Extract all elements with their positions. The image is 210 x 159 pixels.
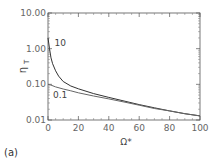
x-tick-label: 100 <box>191 123 208 133</box>
curve-label: 0.1 <box>53 90 67 100</box>
y-axis-label-sub-wrap: T <box>23 59 31 65</box>
panel-label: (a) <box>4 147 18 158</box>
y-axis-label-sub: T <box>23 59 31 65</box>
y-axis-label-main: η <box>17 67 28 73</box>
chart: 10.001.000.100.01 020406080100 100.1 (a)… <box>0 0 210 159</box>
plot-frame <box>48 13 200 120</box>
y-tick-label: 10.00 <box>20 8 46 18</box>
x-tick-label: 60 <box>133 123 145 133</box>
x-tick-label: 80 <box>164 123 176 133</box>
y-tick-label: 0.10 <box>26 79 46 89</box>
x-tick-label: 20 <box>73 123 85 133</box>
y-tick-label: 0.01 <box>26 115 46 125</box>
y-axis-label: η <box>17 67 28 73</box>
y-axis: 10.001.000.100.01 <box>20 8 200 125</box>
plot-border <box>48 13 200 120</box>
series-line-10 <box>48 38 200 116</box>
x-tick-label: 40 <box>103 123 115 133</box>
series-lines <box>48 38 200 116</box>
x-tick-label: 0 <box>45 123 51 133</box>
curve-label: 10 <box>55 38 67 48</box>
series-line-0.1 <box>48 84 200 116</box>
x-axis-label: Ω* <box>120 137 132 147</box>
x-axis: 020406080100 <box>45 13 209 133</box>
y-tick-label: 1.00 <box>26 44 46 54</box>
